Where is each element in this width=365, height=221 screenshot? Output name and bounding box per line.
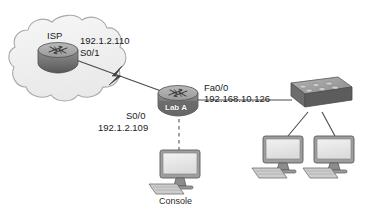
console-pc[interactable]	[149, 150, 200, 194]
isp-interface-label: S0/1	[80, 47, 100, 58]
host-pc-1[interactable]	[252, 136, 303, 178]
console-pc-label: Console	[159, 196, 192, 206]
isp-ip-label: 192.1.2.110	[80, 35, 129, 46]
isp-router-label: ISP	[47, 30, 62, 41]
switch-to-host-1	[288, 112, 308, 136]
switch-to-host-2	[322, 112, 335, 136]
switch[interactable]	[291, 77, 352, 107]
host-pc-2[interactable]	[303, 136, 354, 178]
lab-a-router-label: Lab A	[165, 103, 187, 112]
network-diagram-canvas: ISP 192.1.2.110 S0/1 S0/0 192.1.2.109 Fa…	[0, 0, 365, 221]
lab-a-fastethernet-ip-label: 192.168.10.126	[204, 93, 270, 104]
lab-a-serial-interface-label: S0/0	[126, 110, 146, 121]
isp-router[interactable]	[38, 43, 78, 74]
lab-a-fastethernet-interface-label: Fa0/0	[204, 82, 228, 93]
lab-a-serial-ip-label: 192.1.2.109	[98, 122, 148, 133]
